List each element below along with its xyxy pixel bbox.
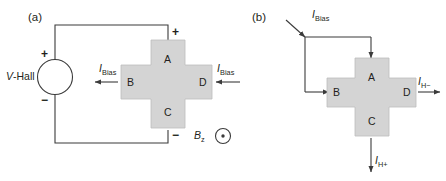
v-hall-source-label: V-Hall	[6, 71, 35, 82]
v-hall-source-symbol	[38, 60, 73, 95]
contact-c-panel-a: C	[164, 107, 172, 118]
panel-b-bias-input-arrow	[286, 20, 305, 37]
panel-b-label: (b)	[252, 12, 266, 24]
source-minus-sign: −	[41, 94, 48, 106]
source-plus-sign: +	[41, 48, 48, 60]
contact-c-panel-b: C	[368, 116, 376, 127]
device-a-top-plus-sign: +	[172, 26, 179, 38]
device-a-bottom-minus-sign: −	[172, 129, 179, 141]
contact-b-panel-b: B	[333, 87, 340, 98]
contact-d-panel-a: D	[199, 77, 207, 88]
magnetic-field-label: Bz	[194, 130, 205, 143]
magnetic-field-out-of-page-icon	[216, 129, 231, 144]
contact-a-panel-a: A	[164, 54, 171, 65]
hall-effect-figure: (a) V-Hall + − + − A B C D IBias IBias B…	[0, 0, 446, 181]
panel-a-bias-label-left: IBias	[99, 63, 117, 76]
panel-a-label: (a)	[28, 12, 42, 24]
panel-b-hall-plus-label: IH+	[375, 155, 388, 168]
panel-b-bias-label: IBias	[312, 9, 330, 22]
panel-a-bias-label-right: IBias	[217, 63, 235, 76]
contact-b-panel-a: B	[127, 77, 134, 88]
contact-a-panel-b: A	[368, 72, 375, 83]
figure-vector-layer	[0, 0, 446, 181]
panel-b-hall-minus-label: IH−	[418, 76, 431, 89]
contact-d-panel-b: D	[403, 87, 411, 98]
